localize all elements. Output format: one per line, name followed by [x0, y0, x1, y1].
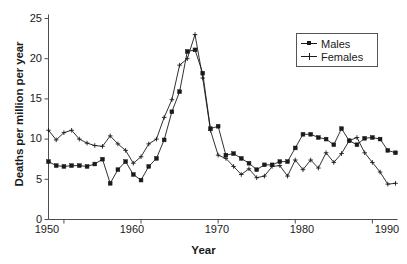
data-point	[193, 48, 197, 52]
data-point	[162, 138, 166, 142]
data-point	[124, 160, 128, 164]
data-point	[178, 90, 182, 94]
legend-label-males: Males	[321, 38, 350, 50]
data-point	[255, 168, 259, 172]
data-point	[77, 164, 81, 168]
data-point	[185, 50, 189, 54]
data-point	[293, 146, 297, 150]
data-point	[324, 137, 328, 141]
data-point	[101, 157, 105, 161]
data-point	[216, 124, 220, 128]
chart-figure: Deaths per million per year Year 25 20 1…	[0, 0, 407, 264]
data-point	[378, 137, 382, 141]
data-point	[232, 152, 236, 156]
legend-marker-square-icon	[300, 38, 318, 50]
data-point	[116, 168, 120, 172]
data-point	[363, 136, 367, 140]
data-point	[70, 164, 74, 168]
data-point	[47, 160, 51, 164]
data-point	[355, 143, 359, 147]
data-point	[340, 127, 344, 131]
data-point	[155, 157, 159, 161]
data-point	[85, 165, 89, 169]
data-point	[131, 173, 135, 177]
data-point	[386, 148, 390, 152]
legend-item-females: Females	[300, 50, 373, 63]
data-point	[170, 110, 174, 114]
data-point	[54, 164, 58, 168]
legend-item-males: Males	[300, 37, 373, 50]
data-point	[62, 165, 66, 169]
data-point	[263, 163, 267, 167]
legend-marker-plus-icon	[300, 51, 318, 63]
data-point	[316, 136, 320, 140]
series-males	[47, 48, 398, 185]
data-point	[394, 151, 398, 155]
legend: Males Females	[296, 33, 378, 67]
data-point	[370, 136, 374, 140]
data-point	[147, 165, 151, 169]
data-point	[139, 178, 143, 182]
data-point	[247, 161, 251, 165]
data-point	[332, 143, 336, 147]
data-point	[239, 157, 243, 161]
legend-label-females: Females	[321, 51, 363, 63]
data-point	[93, 162, 97, 166]
series-line	[49, 50, 396, 183]
data-point	[108, 181, 112, 185]
data-point	[278, 160, 282, 164]
data-point	[301, 132, 305, 136]
data-point	[286, 160, 290, 164]
data-point	[309, 132, 313, 136]
